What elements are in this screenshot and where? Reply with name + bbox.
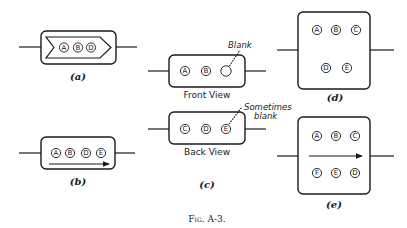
- panel-label: (d): [327, 92, 344, 103]
- pin-label: E: [99, 149, 103, 157]
- back-view-title: Back View: [184, 147, 230, 157]
- pin-label: A: [315, 26, 320, 34]
- pin-label: C: [353, 132, 358, 140]
- pin-label: C: [354, 26, 359, 34]
- leader-line: [230, 50, 241, 66]
- pin-label: E: [224, 125, 228, 133]
- pin-label: A: [183, 67, 188, 75]
- figure-caption: Fig. A-3.: [188, 214, 225, 224]
- panel-label: (b): [70, 176, 87, 187]
- blank-pin-circle: [221, 66, 231, 76]
- pin-label: C: [183, 125, 188, 133]
- pin-label: A: [315, 132, 320, 140]
- panel-label: (a): [70, 71, 86, 82]
- pin-label: E: [345, 64, 349, 72]
- panel-label: (c): [199, 179, 215, 190]
- pin-label: D: [352, 169, 357, 177]
- tube-outline: [298, 12, 370, 89]
- panel-d: A B C D E (d): [277, 12, 394, 103]
- pin-label: D: [203, 125, 208, 133]
- panel-label: (e): [326, 199, 342, 210]
- pin-label: B: [334, 132, 339, 140]
- pin-label: E: [334, 169, 338, 177]
- pin-label: A: [54, 149, 59, 157]
- figure-a3-diagram: A B D (a) A B D E (b) A B Blank Front Vi…: [0, 0, 407, 228]
- pin-label: D: [88, 44, 93, 52]
- panel-c-back: C D E Sometimes blank Back View (c): [148, 102, 292, 190]
- leader-line: [229, 107, 242, 124]
- pin-label: B: [68, 149, 73, 157]
- panel-b: A B D E (b): [19, 137, 135, 187]
- pin-label: B: [76, 44, 81, 52]
- panel-a: A B D (a): [19, 31, 137, 82]
- annotation-blank: blank: [254, 111, 278, 121]
- pin-label: D: [323, 64, 328, 72]
- pin-label: D: [83, 149, 88, 157]
- panel-e: A B C F E D (e): [277, 117, 394, 210]
- pin-label: F: [315, 169, 319, 177]
- front-view-title: Front View: [184, 90, 231, 100]
- pin-label: B: [204, 67, 209, 75]
- pin-label: A: [62, 44, 67, 52]
- panel-c-front: A B Blank Front View: [148, 40, 266, 100]
- pin-label: B: [334, 26, 339, 34]
- annotation-blank: Blank: [228, 40, 253, 50]
